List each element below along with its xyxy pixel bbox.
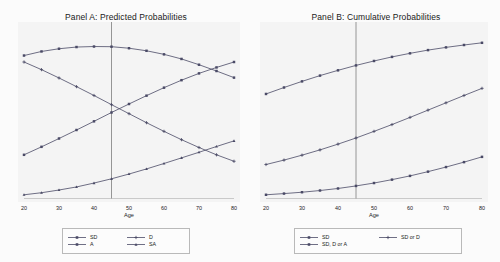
xtick-label: 50 <box>126 205 132 211</box>
xtick-label: 80 <box>231 205 237 211</box>
panel-b-title: Panel B: Cumulative Probabilities <box>252 12 500 22</box>
panel-a-xlabel: Age <box>18 212 240 218</box>
legend-marker-icon <box>126 234 146 241</box>
legend-label: SD <box>322 235 329 240</box>
legend-marker-icon <box>67 234 87 241</box>
legend-marker-icon <box>299 241 319 248</box>
legend-label: SD <box>90 235 97 240</box>
legend-item: SD <box>299 234 378 241</box>
xtick-label: 50 <box>371 205 377 211</box>
panel-a-legend: SDDASA <box>62 228 190 254</box>
xtick-label: 60 <box>407 205 413 211</box>
xtick-label: 70 <box>196 205 202 211</box>
legend-label: SD, D or A <box>322 242 347 247</box>
xtick-label: 70 <box>443 205 449 211</box>
panel-a-plot <box>18 22 240 202</box>
legend-item: D <box>126 234 185 241</box>
legend-label: A <box>90 242 94 247</box>
legend-label: SA <box>149 242 156 247</box>
panel-b-legend: SDSD or DSD, D or A <box>294 228 462 254</box>
legend-item: SA <box>126 241 185 248</box>
xtick-label: 80 <box>479 205 485 211</box>
xtick-label: 20 <box>263 205 269 211</box>
xtick-label: 20 <box>21 205 27 211</box>
xtick-label: 40 <box>91 205 97 211</box>
xtick-label: 30 <box>299 205 305 211</box>
legend-marker-icon <box>299 234 319 241</box>
panel-a-title: Panel A: Predicted Probabilities <box>0 12 252 22</box>
legend-marker-icon <box>126 241 146 248</box>
legend-item: SD <box>67 234 126 241</box>
legend-label: SD or D <box>401 235 420 240</box>
legend-item: SD, D or A <box>299 241 378 248</box>
xtick-label: 60 <box>161 205 167 211</box>
panel-a: Panel A: Predicted Probabilities 2030405… <box>0 0 252 262</box>
panel-b-plot <box>260 22 488 202</box>
legend-item: A <box>67 241 126 248</box>
legend-item: SD or D <box>378 234 457 241</box>
legend-marker-icon <box>378 234 398 241</box>
legend-marker-icon <box>67 241 87 248</box>
xtick-label: 40 <box>335 205 341 211</box>
legend-label: D <box>149 235 153 240</box>
xtick-label: 30 <box>56 205 62 211</box>
figure-canvas: Panel A: Predicted Probabilities 2030405… <box>0 0 500 262</box>
panel-b-xlabel: Age <box>260 212 488 218</box>
panel-b: Panel B: Cumulative Probabilities 203040… <box>252 0 500 262</box>
